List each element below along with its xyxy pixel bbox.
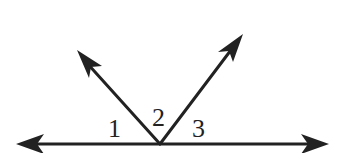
angle-label-2: 2	[152, 103, 165, 132]
angle-label-3: 3	[192, 114, 205, 143]
horizontal-line	[16, 134, 329, 153]
right-ray-arrowhead-icon	[218, 34, 243, 62]
angle-diagram: 1 2 3	[0, 0, 353, 153]
angle-label-1: 1	[108, 114, 121, 143]
